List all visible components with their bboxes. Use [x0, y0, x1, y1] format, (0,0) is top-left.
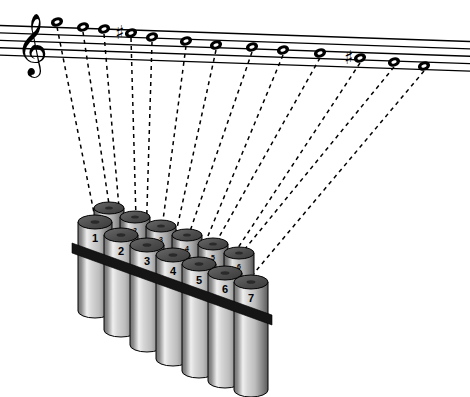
music-staff — [0, 26, 470, 72]
note-11: ♯ — [344, 46, 367, 68]
tube-bore — [183, 233, 191, 236]
note-5 — [145, 31, 160, 44]
front-tube-label: 7 — [248, 292, 254, 304]
front-tube-7: 7 — [234, 275, 268, 397]
note-6 — [179, 35, 194, 48]
leader-line-3 — [104, 34, 121, 231]
tube-bore — [169, 253, 178, 257]
front-tube-label: 6 — [222, 283, 228, 295]
note-1 — [50, 16, 65, 29]
note-9 — [276, 44, 291, 57]
note-3 — [97, 23, 112, 36]
leader-line-4 — [131, 38, 136, 219]
front-tube-label: 5 — [196, 274, 202, 286]
staff-line-2 — [0, 33, 470, 49]
tube-bore — [117, 233, 126, 237]
note-2 — [76, 21, 91, 34]
staff-line-1 — [0, 26, 470, 42]
tube-bore — [91, 220, 100, 224]
tube-bore — [209, 242, 217, 245]
leader-line-5 — [146, 42, 152, 241]
tube-bore — [143, 243, 152, 247]
leader-line-13 — [250, 71, 424, 278]
leader-line-11 — [224, 63, 360, 269]
leader-line-8 — [188, 52, 252, 237]
note-4: ♯ — [115, 21, 138, 43]
front-tube-label: 3 — [144, 255, 150, 267]
tube-bore — [221, 271, 230, 275]
treble-clef: 𝄞 — [16, 12, 48, 78]
leader-line-12 — [240, 67, 394, 255]
sharp-icon: ♯ — [115, 21, 124, 43]
tube-bore — [195, 262, 204, 266]
tube-bore — [247, 280, 256, 284]
sharp-icon: ♯ — [344, 46, 353, 68]
note-12 — [387, 56, 402, 69]
front-tube-label: 2 — [118, 245, 124, 257]
tube-bore — [105, 206, 113, 209]
tube-bore — [235, 251, 243, 254]
tube-bore — [131, 215, 139, 218]
note-8 — [245, 41, 260, 54]
front-tube-label: 4 — [170, 265, 177, 277]
staff-line-3 — [0, 40, 470, 56]
treble-clef-glyph: 𝄞 — [16, 12, 48, 78]
tube-bore — [157, 224, 165, 227]
figure-canvas: 123456 1234567 𝄞♯♯ — [0, 0, 470, 397]
note-10 — [313, 47, 328, 60]
front-tube-label: 1 — [92, 232, 98, 244]
leader-line-10 — [214, 58, 320, 246]
leader-line-1 — [57, 27, 95, 218]
panpipe-notation-figure: 123456 1234567 𝄞♯♯ — [0, 0, 470, 397]
